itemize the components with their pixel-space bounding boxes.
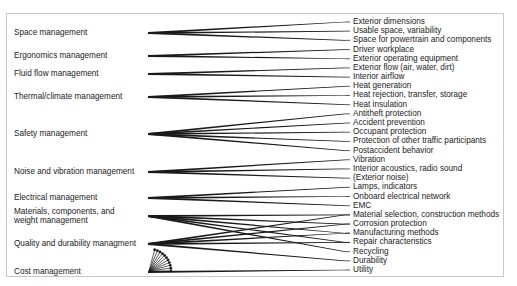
- right-item: Lamps, indicators: [353, 182, 417, 191]
- category-quality: Quality and durability managment: [14, 239, 136, 248]
- category-ergonomics: Ergonomics management: [14, 51, 107, 60]
- category-electrical: Electrical management: [14, 193, 97, 202]
- category-label-line1: Materials, components, and: [14, 207, 115, 216]
- right-item: Space for powertrain and components: [353, 35, 491, 44]
- category-noise: Noise and vibration management: [14, 167, 134, 176]
- right-item: Heat insulation: [353, 100, 407, 109]
- right-item: (Exterior noise): [353, 173, 409, 182]
- right-item: Durability: [353, 256, 387, 265]
- category-cost: Cost management: [14, 267, 81, 276]
- right-item: Manufacturing methods: [353, 228, 439, 237]
- right-item: Repair characteristics: [353, 237, 432, 246]
- right-item: Exterior flow (air, water, dirt): [353, 63, 454, 72]
- right-item: Postaccident behavior: [353, 146, 434, 155]
- right-item: Accident prevention: [353, 118, 425, 127]
- right-item: Recycling: [353, 247, 389, 256]
- right-item: Driver workplace: [353, 45, 414, 54]
- category-fluid: Fluid flow management: [14, 69, 99, 78]
- right-item: Occupant protection: [353, 127, 426, 136]
- right-item: Usable space, variability: [353, 26, 441, 35]
- right-item: Exterior operating equipment: [353, 54, 458, 63]
- right-item: Antitheft protection: [353, 109, 421, 118]
- right-item: EMC: [353, 201, 371, 210]
- right-item: Material selection, construction methods: [353, 210, 499, 219]
- right-item: Onboard electrical network: [353, 192, 450, 201]
- category-space: Space management: [14, 28, 87, 37]
- category-materials: Materials, components, andweight managem…: [14, 207, 115, 225]
- right-item: Utility: [353, 265, 373, 274]
- right-item: Protection of other traffic participants: [353, 136, 486, 145]
- right-item: Heat rejection, transfer, storage: [353, 90, 467, 99]
- category-safety: Safety management: [14, 129, 87, 138]
- right-item: Vibration: [353, 155, 385, 164]
- category-label-line2: weight management: [14, 216, 115, 225]
- right-item: Interior acoustics, radio sound: [353, 164, 462, 173]
- category-thermal: Thermal/climate management: [14, 92, 122, 101]
- right-item: Exterior dimensions: [353, 17, 425, 26]
- right-item: Corrosion protection: [353, 219, 427, 228]
- right-item: Heat generation: [353, 81, 411, 90]
- right-item: Interior airflow: [353, 72, 404, 81]
